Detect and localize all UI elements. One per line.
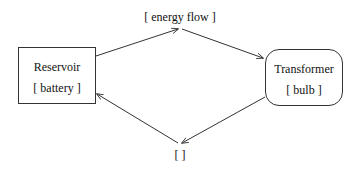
transformer-node: Transformer [ bulb ] [265,49,343,106]
reservoir-subtitle: [ battery ] [19,81,95,96]
top-edge [96,29,263,58]
transformer-title: Transformer [266,62,342,77]
return-flow-label: [ ] [175,148,186,163]
reservoir-node: Reservoir [ battery ] [18,47,96,104]
transformer-subtitle: [ bulb ] [266,83,342,98]
bottom-edge [97,94,265,143]
energy-flow-label: [ energy flow ] [144,10,215,25]
reservoir-title: Reservoir [19,60,95,75]
